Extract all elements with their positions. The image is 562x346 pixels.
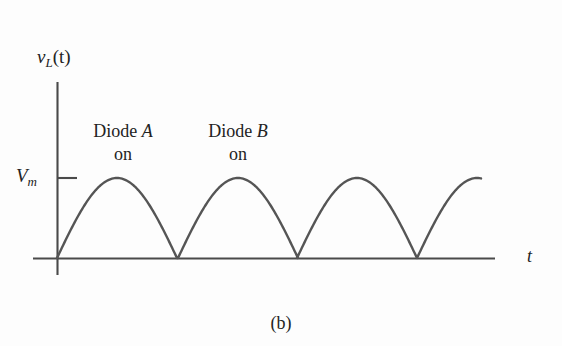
- annotation-diode-b-line1: Diode B: [192, 122, 284, 140]
- annotation-diode-a-line1: Diode A: [77, 122, 169, 140]
- figure-caption: (b): [0, 314, 562, 332]
- annotation-diode-a-prefix: Diode: [93, 121, 142, 141]
- y-axis-label-argument: (t): [53, 46, 71, 67]
- vm-label-main: V: [16, 165, 28, 186]
- annotation-diode-b-letter: B: [257, 121, 268, 141]
- rectified-sine-waveform: [57, 178, 481, 258]
- annotation-diode-b-line2: on: [192, 145, 284, 163]
- annotation-diode-a-letter: A: [142, 121, 153, 141]
- annotation-diode-a-line2: on: [77, 145, 169, 163]
- y-axis-label-subscript: L: [45, 55, 52, 70]
- annotation-diode-a: Diode A on: [77, 122, 169, 163]
- figure-container: vL(t) Vm Diode A on Diode B on t (b): [0, 0, 562, 346]
- annotation-diode-b: Diode B on: [192, 122, 284, 163]
- vm-label-subscript: m: [28, 174, 37, 189]
- x-axis-label: t: [527, 247, 532, 265]
- y-axis-label: vL(t): [37, 47, 71, 69]
- waveform-plot: [0, 0, 562, 346]
- vm-tick-label: Vm: [16, 166, 37, 188]
- annotation-diode-b-prefix: Diode: [208, 121, 257, 141]
